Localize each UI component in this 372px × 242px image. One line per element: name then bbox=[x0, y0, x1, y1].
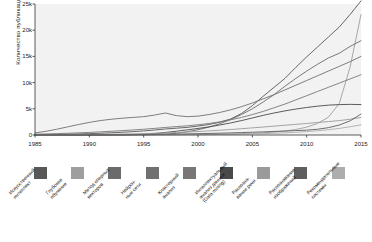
legend-item[interactable]: Интеллектуальный анализ данных (Data min… bbox=[216, 158, 256, 242]
legend-item[interactable]: Кластерный анализ bbox=[179, 158, 219, 242]
series-line bbox=[35, 41, 361, 135]
y-tick-label: 15k bbox=[22, 53, 32, 59]
legend-item[interactable]: Распознавание изображений bbox=[290, 158, 330, 242]
legend-item[interactable]: Глубокое обучение bbox=[67, 158, 107, 242]
y-axis-ticks: 05k10k15k20k25k bbox=[0, 0, 32, 158]
legend-item[interactable]: Рекомендательные системы bbox=[328, 158, 368, 242]
legend: Искусственный интеллектГлубокое обучение… bbox=[0, 158, 367, 242]
x-tick-label: 1985 bbox=[28, 141, 41, 147]
legend-item[interactable]: Искусственный интеллект bbox=[30, 158, 70, 242]
y-tick-label: 0 bbox=[29, 132, 32, 138]
legend-item[interactable]: Распозна- вание речи bbox=[253, 158, 293, 242]
y-tick-label: 25k bbox=[22, 1, 32, 7]
legend-item[interactable]: Метод опорных векторов bbox=[104, 158, 144, 242]
y-tick-label: 20k bbox=[22, 27, 32, 33]
series-line bbox=[35, 14, 361, 134]
y-tick-label: 5k bbox=[26, 106, 32, 112]
legend-item[interactable]: Нейрон- ные сети bbox=[142, 158, 182, 242]
x-tick-label: 2010 bbox=[300, 141, 313, 147]
series-line bbox=[35, 104, 361, 135]
y-tick-label: 10k bbox=[22, 80, 32, 86]
